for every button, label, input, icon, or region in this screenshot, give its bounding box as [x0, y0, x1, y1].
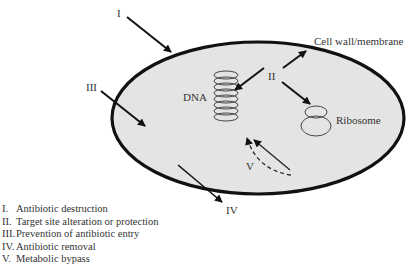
label-dna: DNA — [183, 91, 207, 103]
label-i: I — [117, 7, 121, 19]
legend-item-iv: IV.Antibiotic removal — [2, 241, 159, 254]
legend-item-ii: II.Target site alteration or protection — [2, 216, 159, 229]
label-v: V — [246, 160, 254, 172]
legend-item-v: V.Metabolic bypass — [2, 253, 159, 266]
legend-item-i: I.Antibiotic destruction — [2, 203, 159, 216]
legend: I.Antibiotic destruction II.Target site … — [2, 203, 159, 266]
legend-item-iii: III.Prevention of antibiotic entry — [2, 228, 159, 241]
arrow-i — [127, 17, 171, 52]
label-cell-wall: Cell wall/membrane — [314, 35, 404, 47]
label-ii: II — [268, 70, 276, 82]
label-ribosome: Ribosome — [336, 114, 381, 126]
label-iv: IV — [226, 204, 238, 216]
label-iii: III — [86, 81, 97, 93]
